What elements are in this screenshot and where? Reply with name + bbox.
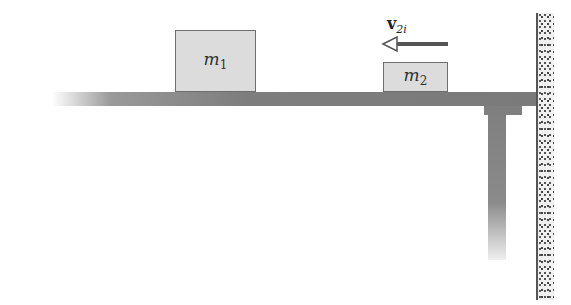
table-leg (488, 115, 506, 260)
velocity-arrow-icon (380, 35, 452, 53)
table-top (52, 92, 538, 106)
block-m1: m1 (175, 30, 256, 92)
wall (536, 13, 554, 300)
velocity-label: v2i (387, 14, 407, 36)
block-m2-label: m2 (404, 65, 428, 88)
block-m1-label: m1 (204, 49, 228, 72)
block-m2: m2 (383, 62, 448, 92)
table-ledge (484, 106, 522, 115)
